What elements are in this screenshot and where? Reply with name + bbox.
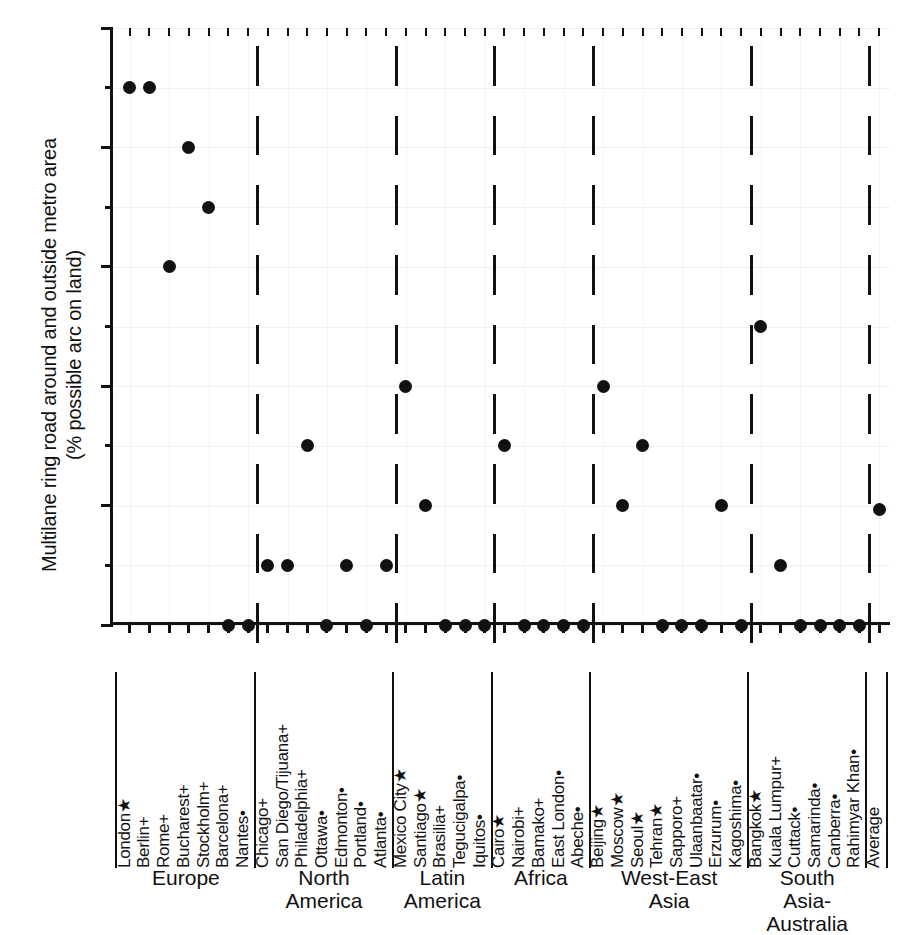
data-point [597, 380, 610, 393]
data-point [656, 619, 669, 632]
data-point [123, 81, 136, 94]
city-label-rome: Rome+ [155, 814, 172, 868]
city-label-mexico-city: Mexico City★ [392, 769, 409, 868]
y-tick-0 [101, 624, 113, 627]
top-tick [523, 28, 525, 36]
y-tick-80 [101, 146, 113, 149]
data-point [695, 619, 708, 632]
region-label-south-asia-australia: South Asia- Australia [766, 866, 849, 935]
city-label-samarinda: Samarinda• [806, 783, 823, 868]
group-separator [395, 603, 398, 643]
data-point [853, 619, 866, 632]
top-tick [661, 28, 663, 36]
label-band-rule [747, 672, 749, 868]
group-separator [493, 116, 496, 156]
top-tick [405, 28, 407, 36]
label-band-rule [491, 672, 493, 868]
y-axis-title: Multilane ring road around and outside m… [37, 35, 87, 675]
x-tick [641, 622, 644, 633]
data-point [557, 619, 570, 632]
data-point [320, 619, 333, 632]
city-label-east-london: East London• [550, 770, 567, 868]
top-tick [129, 28, 131, 36]
data-point [242, 619, 255, 632]
group-separator [750, 603, 753, 643]
group-separator [868, 325, 871, 365]
group-separator [256, 394, 259, 434]
city-label-chicago: Chicago+ [254, 798, 271, 868]
group-separator [493, 464, 496, 504]
top-tick [799, 28, 801, 36]
group-separator [493, 394, 496, 434]
city-label-ottawa: Ottawa• [313, 810, 330, 868]
region-label-north-america: North America [285, 866, 362, 912]
x-tick [148, 622, 151, 633]
data-point [301, 439, 314, 452]
data-point [518, 619, 531, 632]
y-tick-20 [101, 504, 113, 507]
data-point [261, 559, 274, 572]
data-point [478, 619, 491, 632]
group-separator [256, 534, 259, 574]
y-tick-minor-70 [105, 206, 113, 209]
city-label-sapporo: Sapporo+ [668, 796, 685, 868]
x-tick [779, 622, 782, 633]
city-label-atlanta: Atlanta• [372, 812, 389, 868]
city-label-average: Average [865, 807, 882, 868]
group-separator [750, 46, 753, 86]
top-tick [168, 28, 170, 36]
y-tick-minor-90 [105, 86, 113, 89]
data-point-average [873, 503, 886, 516]
data-point [360, 619, 373, 632]
top-tick [582, 28, 584, 36]
city-label-band: London★Berlin+Rome+Bucharest+Stockholm+B… [110, 672, 890, 868]
x-tick [168, 622, 171, 633]
x-tick [759, 622, 762, 633]
city-label-nantes: Nantes• [234, 810, 251, 868]
group-separator [868, 394, 871, 434]
y-tick-40 [101, 385, 113, 388]
x-tick [385, 622, 388, 633]
label-band-rule [115, 672, 117, 868]
region-label-band: EuropeNorth AmericaLatin AmericaAfricaWe… [110, 866, 890, 914]
top-tick [839, 28, 841, 36]
group-separator [592, 464, 595, 504]
group-separator [256, 464, 259, 504]
group-separator [256, 46, 259, 86]
group-separator [592, 46, 595, 86]
top-tick [464, 28, 466, 36]
group-separator [750, 116, 753, 156]
data-point [340, 559, 353, 572]
x-tick [621, 622, 624, 633]
city-label-brasilia: Brasilia+ [431, 805, 448, 868]
region-label-west-east-asia: West-East Asia [621, 866, 717, 912]
city-label-stockholm: Stockholm+ [195, 782, 212, 868]
x-tick [286, 622, 289, 633]
city-label-london: London★ [116, 798, 133, 868]
top-tick [148, 28, 150, 36]
city-label-edmonton: Edmonton• [333, 787, 350, 868]
group-separator [395, 394, 398, 434]
x-tick [424, 622, 427, 633]
group-separator [395, 46, 398, 86]
data-point [537, 619, 550, 632]
data-point [281, 559, 294, 572]
group-separator [256, 603, 259, 643]
data-point [380, 559, 393, 572]
label-band-rule [392, 672, 394, 868]
group-separator [493, 325, 496, 365]
data-point [439, 619, 452, 632]
group-separator [592, 603, 595, 643]
top-tick [247, 28, 249, 36]
top-tick [622, 28, 624, 36]
city-label-santiago: Santiago★ [412, 789, 429, 868]
group-separator [592, 534, 595, 574]
group-separator [256, 185, 259, 225]
top-tick [365, 28, 367, 36]
x-tick [720, 622, 723, 633]
city-label-seoul: Seoul★ [629, 811, 646, 868]
x-tick [207, 622, 210, 633]
city-label-canberra: Canberra• [826, 794, 843, 868]
group-separator [256, 255, 259, 295]
top-tick [306, 28, 308, 36]
